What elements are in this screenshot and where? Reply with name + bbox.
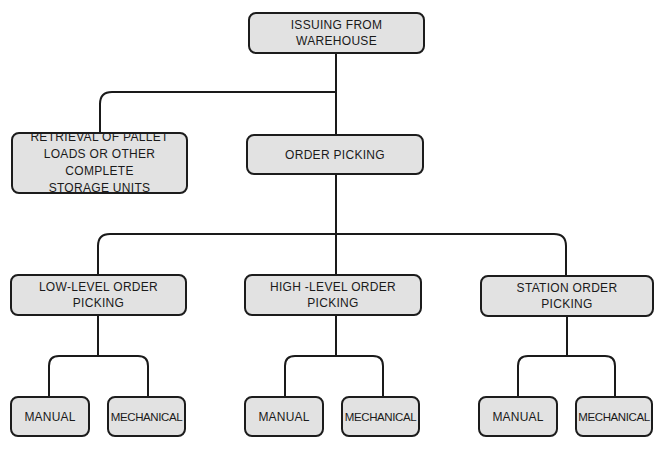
node-order-picking: ORDER PICKING: [246, 134, 424, 175]
node-issuing-from-warehouse: ISSUING FROM WAREHOUSE: [248, 12, 425, 54]
node-high-level-order-picking: HIGH -LEVEL ORDER PICKING: [244, 274, 422, 316]
connector-low-level-branch: [49, 356, 148, 396]
connector-high-level-branch: [285, 356, 383, 396]
node-low-level-mechanical: MECHANICAL: [107, 396, 186, 437]
node-high-level-mechanical: MECHANICAL: [341, 396, 420, 437]
connector-station-branch: [518, 356, 615, 396]
connector-root-to-retrieval: [100, 92, 336, 132]
node-high-level-manual: MANUAL: [244, 396, 324, 437]
node-station-order-picking: STATION ORDER PICKING: [480, 275, 654, 317]
node-station-manual: MANUAL: [478, 396, 558, 437]
node-station-mechanical: MECHANICAL: [575, 396, 653, 437]
connector-bar-level2: [98, 234, 566, 275]
node-low-level-manual: MANUAL: [10, 396, 90, 437]
node-retrieval-of-pallet-loads: RETRIEVAL OF PALLET LOADS OR OTHER COMPL…: [11, 132, 188, 194]
connector-lines: [0, 0, 662, 451]
node-low-level-order-picking: LOW-LEVEL ORDER PICKING: [10, 274, 187, 316]
